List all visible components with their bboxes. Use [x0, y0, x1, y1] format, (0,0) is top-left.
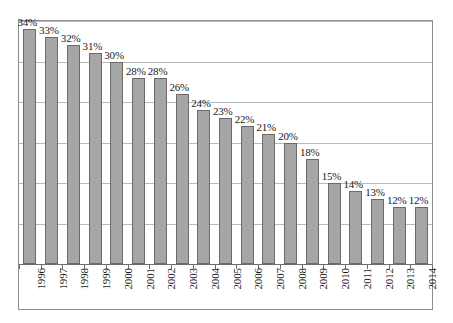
- bar-value-label: 28%: [126, 66, 146, 77]
- bar-value-label: 20%: [278, 131, 298, 142]
- bar-value-label: 23%: [213, 106, 233, 117]
- bar[interactable]: [349, 191, 362, 264]
- bar-group: [219, 21, 232, 264]
- bar-group: [154, 21, 167, 264]
- bar[interactable]: [67, 45, 80, 264]
- bar-value-label: 21%: [256, 122, 276, 133]
- category-label: 1999: [100, 268, 112, 308]
- bar-group: [306, 21, 319, 264]
- bar-value-label: 34%: [17, 17, 37, 28]
- bar-value-label: 30%: [104, 50, 124, 61]
- category-label: 2001: [144, 268, 156, 308]
- bar[interactable]: [306, 159, 319, 264]
- category-label: 2006: [252, 268, 264, 308]
- bar[interactable]: [45, 37, 58, 264]
- bar-value-label: 22%: [235, 114, 255, 125]
- bar-value-label: 33%: [39, 25, 59, 36]
- bar-group: [284, 21, 297, 264]
- bar-value-label: 15%: [322, 171, 342, 182]
- bar-group: [176, 21, 189, 264]
- bar-group: [349, 21, 362, 264]
- category-label: 2002: [165, 268, 177, 308]
- bar[interactable]: [371, 199, 384, 264]
- category-label: 2009: [317, 268, 329, 308]
- bar-value-label: 14%: [343, 179, 363, 190]
- category-label: 2014: [426, 268, 438, 308]
- category-label: 2005: [231, 268, 243, 308]
- bar-group: [197, 21, 210, 264]
- category-label: 1996: [35, 268, 47, 308]
- category-label: 2004: [209, 268, 221, 308]
- bar-group: [393, 21, 406, 264]
- bar[interactable]: [110, 62, 123, 265]
- bar-group: [45, 21, 58, 264]
- bar-series: 34%33%32%31%30%28%28%26%24%23%22%21%20%1…: [19, 21, 432, 264]
- category-label: 2013: [404, 268, 416, 308]
- bar-value-label: 24%: [191, 98, 211, 109]
- bar-value-label: 32%: [61, 33, 81, 44]
- bar[interactable]: [89, 53, 102, 264]
- bar[interactable]: [241, 126, 254, 264]
- category-label: 2003: [187, 268, 199, 308]
- category-label: 2008: [296, 268, 308, 308]
- category-label: 1997: [57, 268, 69, 308]
- bar[interactable]: [262, 134, 275, 264]
- bar-group: [415, 21, 428, 264]
- bar-group: [241, 21, 254, 264]
- category-axis-labels: 1996199719981999200020012002200320042005…: [19, 268, 432, 309]
- bar-group: [132, 21, 145, 264]
- bar[interactable]: [415, 207, 428, 264]
- bar-value-label: 18%: [300, 147, 320, 158]
- bar-value-label: 12%: [409, 195, 429, 206]
- bar-value-label: 12%: [387, 195, 407, 206]
- category-label: 2011: [361, 268, 373, 308]
- bar-value-label: 13%: [365, 187, 385, 198]
- category-label: 2010: [339, 268, 351, 308]
- bar[interactable]: [154, 78, 167, 264]
- bar-value-label: 28%: [148, 66, 168, 77]
- bar-group: [328, 21, 341, 264]
- bar-group: [23, 21, 36, 264]
- bar[interactable]: [393, 207, 406, 264]
- bar[interactable]: [23, 29, 36, 264]
- bar-group: [371, 21, 384, 264]
- bar-group: [262, 21, 275, 264]
- category-label: 2000: [122, 268, 134, 308]
- bar-value-label: 26%: [170, 82, 190, 93]
- bar-value-label: 31%: [83, 41, 103, 52]
- bar[interactable]: [284, 143, 297, 265]
- bar-group: [67, 21, 80, 264]
- category-label: 1998: [78, 268, 90, 308]
- bar[interactable]: [176, 94, 189, 264]
- bar-group: [89, 21, 102, 264]
- chart-figure: 34%33%32%31%30%28%28%26%24%23%22%21%20%1…: [0, 0, 453, 323]
- bar[interactable]: [132, 78, 145, 264]
- bar[interactable]: [219, 118, 232, 264]
- bar[interactable]: [328, 183, 341, 264]
- category-label: 2007: [274, 268, 286, 308]
- category-label: 2012: [383, 268, 395, 308]
- bar[interactable]: [197, 110, 210, 264]
